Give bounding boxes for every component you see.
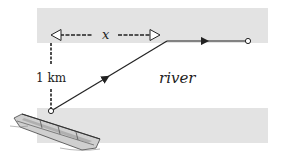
width-label: 1 km xyxy=(36,71,67,85)
river-label: river xyxy=(159,69,196,87)
river-crossing-diagram: x 1 km river xyxy=(0,0,283,155)
end-point xyxy=(245,38,250,43)
x-label: x xyxy=(102,27,110,42)
crossing-path xyxy=(51,41,246,111)
start-point xyxy=(48,108,53,113)
